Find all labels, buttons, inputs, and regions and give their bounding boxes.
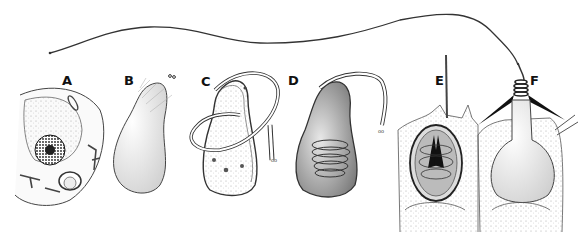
panel-a-cell xyxy=(15,88,104,205)
panel-d-capsule: oo xyxy=(296,74,385,197)
illustration-canvas: oo oo xyxy=(0,0,585,232)
panel-b-capsule xyxy=(114,75,176,193)
panel-c-capsule: oo xyxy=(191,73,278,195)
panel-f-discharged xyxy=(478,63,578,232)
discharged-thread xyxy=(49,14,518,65)
panel-label-d: D xyxy=(288,74,299,87)
svg-text:oo: oo xyxy=(271,157,277,163)
panel-label-a: A xyxy=(62,74,72,87)
nematocyst-figure: oo oo xyxy=(0,0,585,232)
panel-label-b: B xyxy=(124,74,134,87)
panel-label-e: E xyxy=(435,74,444,87)
svg-text:oo: oo xyxy=(378,128,384,134)
panel-label-c: C xyxy=(201,75,211,88)
panel-label-f: F xyxy=(530,74,539,87)
